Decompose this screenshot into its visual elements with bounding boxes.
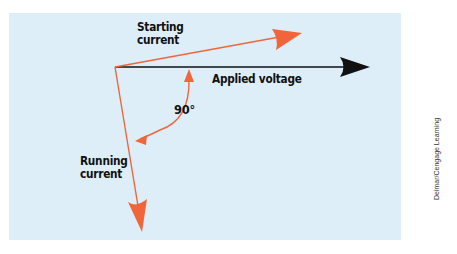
phasor-diagram: [0, 0, 457, 254]
applied-voltage-label: Applied voltage: [212, 73, 302, 86]
image-credit: Delmar/Cengage Learning: [433, 118, 440, 200]
starting-current-label-line2: current: [137, 34, 184, 47]
running-current-arrow: [115, 67, 147, 232]
starting-current-label: Starting current: [137, 21, 184, 47]
running-current-label: Running current: [80, 155, 128, 181]
running-current-label-line2: current: [80, 168, 128, 181]
angle-label: 90°: [174, 103, 195, 116]
